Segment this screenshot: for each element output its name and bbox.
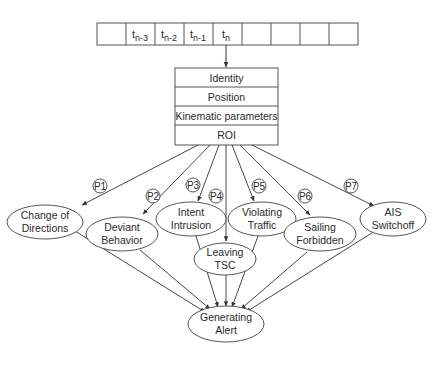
behavior-label: Intrusion [171, 219, 211, 231]
behavior-node-deviant-behavior: Deviant Behavior [86, 217, 158, 251]
path-label-p5: P5 [253, 181, 266, 192]
record-field-kinematic: Kinematic parameters [175, 110, 277, 122]
behavior-label: Directions [22, 222, 69, 234]
behavior-label: Behavior [101, 234, 143, 246]
behavior-node-leaving-tsc: Leaving TSC [194, 243, 256, 275]
behavior-label: AIS [385, 206, 402, 218]
path-label-p1: P1 [94, 181, 107, 192]
behavior-node-intent-intrusion: Intent Intrusion [156, 202, 226, 236]
behavior-label: Leaving [207, 246, 244, 258]
path-label-p6: P6 [299, 191, 312, 202]
output-label: Generating [200, 311, 252, 323]
behavior-node-sailing-forbidden: Sailing Forbidden [284, 217, 356, 251]
path-label-p4: P4 [210, 191, 223, 202]
path-label-p7: P7 [345, 181, 358, 192]
behavior-label: Sailing [304, 221, 336, 233]
behavior-label: Traffic [248, 219, 277, 231]
output-node-generating-alert: Generating Alert [188, 306, 264, 342]
behavior-node-ais-switchoff: AIS Switchoff [360, 202, 426, 236]
record-field-position: Position [208, 91, 246, 103]
behavior-label: Deviant [104, 221, 140, 233]
behavior-label: Forbidden [296, 234, 343, 246]
behavior-label: Change of [21, 209, 70, 221]
path-label-p2: P2 [147, 191, 160, 202]
timeline-strip: tn-3 tn-2 tn-1 tn [97, 23, 358, 45]
behavior-label: Violating [242, 206, 282, 218]
behavior-label: Intent [178, 206, 204, 218]
path-labels: P1 P2 P3 P4 P5 P6 P7 [93, 178, 358, 203]
record-field-roi: ROI [217, 129, 236, 141]
behavior-alert-diagram: tn-3 tn-2 tn-1 tn Identity Position Kine… [0, 0, 446, 365]
path-label-p3: P3 [187, 180, 200, 191]
output-label: Alert [215, 324, 237, 336]
vessel-record-box: Identity Position Kinematic parameters R… [175, 68, 278, 145]
behavior-node-change-of-directions: Change of Directions [7, 205, 83, 239]
behavior-label: Switchoff [372, 219, 414, 231]
record-field-identity: Identity [210, 72, 245, 84]
behavior-label: TSC [215, 259, 236, 271]
